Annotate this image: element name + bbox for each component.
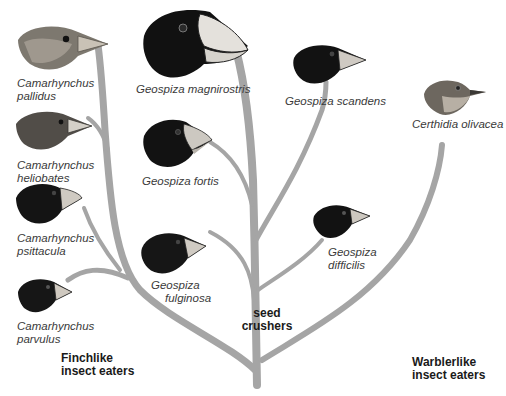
species-label-fulginosa: Geospiza fulginosa — [151, 279, 211, 305]
epithet-text: parvulus — [17, 333, 94, 346]
genus-text: Camarhynchus — [17, 77, 94, 90]
epithet-text: difficilis — [328, 259, 377, 272]
fulginosa-branch — [210, 232, 254, 300]
group-label-seed-crushers: seed crushers — [241, 307, 293, 333]
bird-head-fulginosa-icon — [140, 230, 208, 278]
species-label-fortis: Geospiza fortis — [142, 175, 219, 188]
bird-head-difficilis-icon — [312, 202, 372, 244]
epithet-text: fulginosa — [151, 292, 211, 305]
difficilis-branch — [258, 240, 322, 290]
species-text: Geospiza fortis — [142, 175, 219, 188]
fortis-branch — [210, 142, 252, 205]
epithet-text: heliobates — [17, 172, 94, 185]
bird-head-scandens-icon — [292, 42, 368, 90]
group-line2: insect eaters — [61, 365, 134, 378]
species-label-psittacula: Camarhynchus psittacula — [17, 232, 94, 258]
group-line2: insect eaters — [412, 369, 485, 382]
species-text: Certhidia olivacea — [412, 118, 503, 131]
species-label-parvulus: Camarhynchus parvulus — [17, 320, 94, 346]
genus-text: Geospiza — [328, 246, 377, 259]
genus-text: Camarhynchus — [17, 232, 94, 245]
species-label-scandens: Geospiza scandens — [285, 95, 386, 108]
species-label-magnirostris: Geospiza magnirostris — [136, 83, 250, 96]
genus-text: Geospiza — [151, 279, 211, 292]
bird-head-psittacula-icon — [14, 180, 84, 228]
genus-text: Camarhynchus — [17, 159, 94, 172]
species-text: Geospiza scandens — [285, 95, 386, 108]
bird-head-heliobates-icon — [14, 108, 94, 154]
species-label-pallidus: Camarhynchus pallidus — [17, 77, 94, 103]
bird-head-pallidus-icon — [16, 22, 112, 74]
species-label-difficilis: Geospiza difficilis — [328, 246, 377, 272]
species-label-heliobates: Camarhynchus heliobates — [17, 159, 94, 185]
finch-phylogeny-diagram: Camarhynchus pallidus Camarhynchus helio… — [0, 0, 506, 396]
group-label-warblerlike: Warblerlike insect eaters — [412, 356, 485, 382]
genus-text: Camarhynchus — [17, 320, 94, 333]
trunk-branch — [236, 50, 257, 385]
group-label-finchlike: Finchlike insect eaters — [61, 352, 134, 378]
bird-head-magnirostris-icon — [140, 6, 250, 84]
bird-head-parvulus-icon — [16, 274, 74, 316]
group-line2: crushers — [241, 320, 293, 333]
epithet-text: psittacula — [17, 245, 94, 258]
bird-head-olivacea-icon — [422, 76, 488, 118]
bird-head-fortis-icon — [142, 116, 214, 172]
epithet-text: pallidus — [17, 90, 94, 103]
species-label-olivacea: Certhidia olivacea — [412, 118, 503, 131]
species-text: Geospiza magnirostris — [136, 83, 250, 96]
